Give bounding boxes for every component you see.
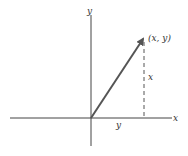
- y-axis-label: y: [86, 6, 93, 16]
- x-axis-label: x: [173, 113, 178, 123]
- vertical-component-label: x: [148, 72, 153, 82]
- diagram-svg: y x (x, y) x y: [0, 0, 188, 156]
- vector-diagram: y x (x, y) x y: [0, 0, 188, 156]
- horizontal-component-label: y: [115, 120, 122, 130]
- vector-arrow: [91, 39, 143, 118]
- point-label: (x, y): [148, 33, 171, 43]
